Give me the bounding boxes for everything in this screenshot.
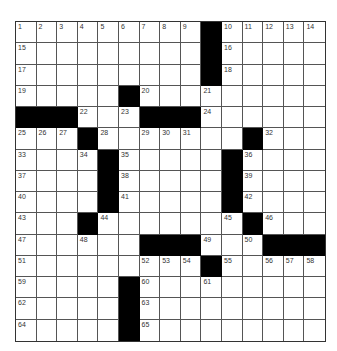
grid-cell[interactable] bbox=[57, 192, 78, 213]
grid-cell[interactable] bbox=[263, 298, 284, 319]
grid-cell[interactable] bbox=[263, 320, 284, 341]
grid-cell[interactable]: 46 bbox=[263, 213, 284, 234]
grid-cell[interactable]: 49 bbox=[201, 235, 222, 256]
grid-cell[interactable] bbox=[57, 213, 78, 234]
grid-cell[interactable] bbox=[98, 43, 119, 64]
grid-cell[interactable] bbox=[284, 171, 305, 192]
grid-cell[interactable]: 19 bbox=[16, 86, 37, 107]
grid-cell[interactable]: 2 bbox=[37, 22, 58, 43]
grid-cell[interactable]: 52 bbox=[140, 256, 161, 277]
grid-cell[interactable]: 17 bbox=[16, 65, 37, 86]
grid-cell[interactable] bbox=[160, 192, 181, 213]
grid-cell[interactable]: 56 bbox=[263, 256, 284, 277]
grid-cell[interactable] bbox=[181, 277, 202, 298]
grid-cell[interactable] bbox=[98, 86, 119, 107]
grid-cell[interactable] bbox=[181, 171, 202, 192]
grid-cell[interactable] bbox=[222, 320, 243, 341]
grid-cell[interactable]: 34 bbox=[78, 150, 99, 171]
grid-cell[interactable]: 28 bbox=[98, 128, 119, 149]
grid-cell[interactable] bbox=[243, 320, 264, 341]
grid-cell[interactable] bbox=[37, 298, 58, 319]
grid-cell[interactable] bbox=[160, 43, 181, 64]
grid-cell[interactable] bbox=[181, 213, 202, 234]
grid-cell[interactable] bbox=[119, 213, 140, 234]
grid-cell[interactable] bbox=[243, 298, 264, 319]
grid-cell[interactable] bbox=[181, 320, 202, 341]
grid-cell[interactable] bbox=[304, 150, 325, 171]
grid-cell[interactable] bbox=[37, 277, 58, 298]
grid-cell[interactable]: 47 bbox=[16, 235, 37, 256]
grid-cell[interactable] bbox=[37, 171, 58, 192]
grid-cell[interactable] bbox=[243, 277, 264, 298]
grid-cell[interactable] bbox=[304, 107, 325, 128]
grid-cell[interactable]: 58 bbox=[304, 256, 325, 277]
grid-cell[interactable] bbox=[160, 86, 181, 107]
grid-cell[interactable] bbox=[263, 107, 284, 128]
grid-cell[interactable] bbox=[98, 256, 119, 277]
grid-cell[interactable]: 29 bbox=[140, 128, 161, 149]
grid-cell[interactable]: 38 bbox=[119, 171, 140, 192]
grid-cell[interactable] bbox=[304, 298, 325, 319]
grid-cell[interactable] bbox=[222, 235, 243, 256]
grid-cell[interactable]: 16 bbox=[222, 43, 243, 64]
grid-cell[interactable]: 43 bbox=[16, 213, 37, 234]
grid-cell[interactable]: 15 bbox=[16, 43, 37, 64]
grid-cell[interactable] bbox=[140, 43, 161, 64]
grid-cell[interactable] bbox=[181, 43, 202, 64]
grid-cell[interactable]: 59 bbox=[16, 277, 37, 298]
grid-cell[interactable] bbox=[57, 65, 78, 86]
grid-cell[interactable] bbox=[181, 150, 202, 171]
grid-cell[interactable]: 24 bbox=[201, 107, 222, 128]
grid-cell[interactable] bbox=[37, 65, 58, 86]
grid-cell[interactable]: 61 bbox=[201, 277, 222, 298]
grid-cell[interactable]: 30 bbox=[160, 128, 181, 149]
grid-cell[interactable] bbox=[304, 277, 325, 298]
grid-cell[interactable] bbox=[181, 86, 202, 107]
grid-cell[interactable] bbox=[222, 128, 243, 149]
grid-cell[interactable] bbox=[98, 65, 119, 86]
grid-cell[interactable]: 48 bbox=[78, 235, 99, 256]
grid-cell[interactable] bbox=[78, 192, 99, 213]
grid-cell[interactable]: 35 bbox=[119, 150, 140, 171]
grid-cell[interactable]: 21 bbox=[201, 86, 222, 107]
grid-cell[interactable]: 54 bbox=[181, 256, 202, 277]
grid-cell[interactable] bbox=[160, 150, 181, 171]
grid-cell[interactable] bbox=[304, 213, 325, 234]
grid-cell[interactable] bbox=[57, 256, 78, 277]
grid-cell[interactable] bbox=[263, 277, 284, 298]
grid-cell[interactable] bbox=[304, 86, 325, 107]
grid-cell[interactable] bbox=[263, 171, 284, 192]
grid-cell[interactable]: 22 bbox=[78, 107, 99, 128]
grid-cell[interactable]: 4 bbox=[78, 22, 99, 43]
grid-cell[interactable] bbox=[160, 171, 181, 192]
grid-cell[interactable] bbox=[284, 192, 305, 213]
grid-cell[interactable]: 8 bbox=[160, 22, 181, 43]
grid-cell[interactable] bbox=[57, 320, 78, 341]
grid-cell[interactable] bbox=[201, 213, 222, 234]
grid-cell[interactable] bbox=[78, 43, 99, 64]
grid-cell[interactable]: 13 bbox=[284, 22, 305, 43]
grid-cell[interactable] bbox=[304, 43, 325, 64]
grid-cell[interactable]: 36 bbox=[243, 150, 264, 171]
grid-cell[interactable]: 44 bbox=[98, 213, 119, 234]
grid-cell[interactable] bbox=[304, 128, 325, 149]
grid-cell[interactable]: 32 bbox=[263, 128, 284, 149]
grid-cell[interactable] bbox=[284, 107, 305, 128]
grid-cell[interactable] bbox=[140, 150, 161, 171]
grid-cell[interactable] bbox=[119, 128, 140, 149]
grid-cell[interactable] bbox=[98, 277, 119, 298]
grid-cell[interactable] bbox=[304, 171, 325, 192]
grid-cell[interactable] bbox=[160, 213, 181, 234]
grid-cell[interactable]: 62 bbox=[16, 298, 37, 319]
grid-cell[interactable]: 45 bbox=[222, 213, 243, 234]
grid-cell[interactable] bbox=[57, 86, 78, 107]
grid-cell[interactable] bbox=[78, 298, 99, 319]
grid-cell[interactable] bbox=[37, 150, 58, 171]
grid-cell[interactable] bbox=[140, 171, 161, 192]
grid-cell[interactable] bbox=[98, 107, 119, 128]
grid-cell[interactable] bbox=[160, 277, 181, 298]
grid-cell[interactable] bbox=[284, 213, 305, 234]
grid-cell[interactable] bbox=[222, 107, 243, 128]
grid-cell[interactable] bbox=[37, 86, 58, 107]
grid-cell[interactable] bbox=[284, 277, 305, 298]
